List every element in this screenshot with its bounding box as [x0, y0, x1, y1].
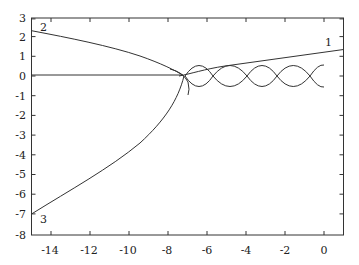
- y-tick-labels: 3 2 1 0 -1 -2 -3 -4 -5 -6 -7 -8: [15, 12, 26, 242]
- series-oscillation-lower: [185, 76, 324, 87]
- y-tick-label: 0: [19, 70, 26, 83]
- x-tick-label: -10: [119, 244, 137, 257]
- y-axis: [32, 19, 344, 214]
- x-axis: [51, 18, 324, 235]
- series-1: [179, 50, 344, 77]
- series-oscillation-upper: [185, 65, 324, 76]
- chart: 3 2 1 0 -1 -2 -3 -4 -5 -6 -7 -8 -14 -12 …: [0, 0, 359, 265]
- y-tick-label: -6: [15, 188, 26, 201]
- plot-frame: [32, 18, 344, 235]
- x-tick-label: -12: [80, 244, 98, 257]
- x-tick-label: 0: [321, 244, 328, 257]
- y-tick-label: -5: [15, 168, 26, 181]
- y-tick-label: 1: [19, 50, 26, 63]
- curve-label-3: 3: [40, 213, 47, 226]
- curve-label-1: 1: [325, 36, 332, 49]
- x-tick-label: -14: [41, 244, 59, 257]
- y-tick-label: -3: [15, 129, 26, 142]
- curves: [32, 31, 344, 214]
- series-3: [32, 76, 185, 214]
- y-tick-label: -4: [15, 149, 26, 162]
- x-tick-label: -6: [202, 244, 213, 257]
- curve-label-2: 2: [40, 21, 47, 34]
- y-tick-label: -8: [15, 229, 26, 242]
- y-tick-label: -1: [15, 90, 26, 103]
- y-tick-label: -2: [15, 109, 26, 122]
- y-tick-label: -7: [15, 208, 26, 221]
- series-2: [32, 31, 185, 76]
- y-tick-label: 3: [19, 12, 26, 25]
- x-tick-label: -2: [280, 244, 291, 257]
- x-tick-labels: -14 -12 -10 -8 -6 -4 -2 0: [41, 244, 327, 257]
- x-tick-label: -4: [241, 244, 252, 257]
- x-tick-label: -8: [162, 244, 173, 257]
- y-tick-label: 2: [19, 31, 26, 44]
